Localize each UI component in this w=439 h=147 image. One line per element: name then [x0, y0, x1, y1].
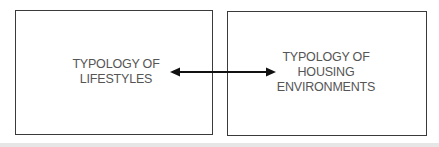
- lifestyles-label: TYPOLOGY OF LIFESTYLES: [72, 57, 159, 87]
- bidirectional-arrow-icon: [170, 66, 276, 78]
- housing-environments-label: TYPOLOGY OF HOUSING ENVIRONMENTS: [277, 50, 375, 95]
- bottom-divider: [0, 143, 439, 147]
